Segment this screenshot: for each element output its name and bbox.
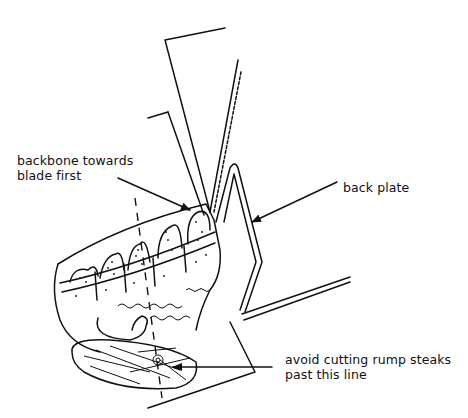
label-cut-limit: avoid cutting rump steaks past this line — [285, 352, 451, 382]
hind-quarter-meat — [54, 204, 220, 389]
label-backbone-line2: blade first — [17, 168, 133, 183]
diagram-canvas: backbone towards blade first back plate … — [0, 0, 468, 418]
saw-frame — [148, 28, 225, 215]
label-backbone-line1: backbone towards — [17, 153, 133, 168]
back-plate-arrow-icon — [252, 182, 337, 222]
label-back-plate-text: back plate — [343, 180, 409, 195]
back-plate — [216, 164, 350, 320]
saw-blade-icon — [210, 60, 241, 212]
label-backbone: backbone towards blade first — [17, 153, 133, 183]
label-back-plate: back plate — [343, 180, 409, 195]
label-cut-limit-line2: past this line — [285, 367, 451, 382]
label-cut-limit-line1: avoid cutting rump steaks — [285, 352, 451, 367]
